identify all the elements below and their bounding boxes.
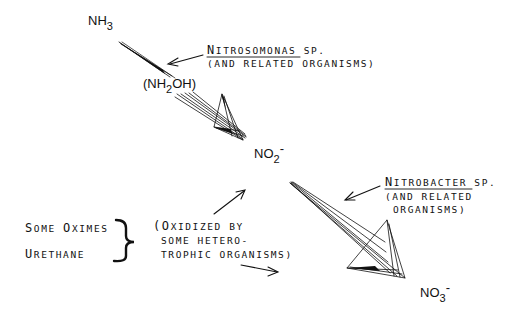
nitrobacter-pointer-icon xyxy=(345,186,380,200)
svg-text:SOME HETERO-: SOME HETERO- xyxy=(161,235,249,246)
svg-text:NITROBACTER SP.: NITROBACTER SP. xyxy=(385,175,496,189)
nitrite-label: NO2- xyxy=(254,141,284,165)
arrow-ammonia-to-hydroxylamine-icon xyxy=(119,42,175,78)
svg-text:NO3-: NO3- xyxy=(420,280,450,304)
curly-brace-icon xyxy=(114,220,134,261)
svg-text:(NH2OH): (NH2OH) xyxy=(143,76,196,95)
svg-text:(AND RELATED: (AND RELATED xyxy=(385,191,473,202)
nitrosomonas-label: NITROSOMONAS SP. (AND RELATED ORGANISMS) xyxy=(207,43,375,69)
svg-text:NO2-: NO2- xyxy=(254,141,284,165)
svg-text:(AND RELATED ORGANISMS): (AND RELATED ORGANISMS) xyxy=(207,58,375,69)
svg-text:NITROSOMONAS SP.: NITROSOMONAS SP. xyxy=(207,43,326,57)
heterotrophic-to-nitrite-arrow-icon xyxy=(214,190,245,214)
sources-label: SOME OXIMES URETHANE xyxy=(25,221,109,261)
svg-text:(OXIDIZED BY: (OXIDIZED BY xyxy=(153,219,244,233)
heterotrophic-to-nitrate-arrow-icon xyxy=(241,265,278,276)
svg-text:TROPHIC ORGANISMS): TROPHIC ORGANISMS) xyxy=(161,249,293,260)
nitrification-diagram: NH3 (NH2OH) NITROSOMONAS SP. (AND REL xyxy=(0,0,529,312)
heterotrophic-label: (OXIDIZED BY SOME HETERO- TROPHIC ORGANI… xyxy=(153,219,293,260)
svg-text:ORGANISMS): ORGANISMS) xyxy=(393,204,466,215)
nitrobacter-label: NITROBACTER SP. (AND RELATED ORGANISMS) xyxy=(385,175,496,215)
arrow-hydroxylamine-to-nitrite-icon xyxy=(175,92,246,140)
svg-text:URETHANE: URETHANE xyxy=(25,247,85,261)
ammonia-label: NH3 xyxy=(88,13,113,32)
hydroxylamine-label: (NH2OH) xyxy=(143,76,196,95)
svg-text:NH3: NH3 xyxy=(88,13,113,32)
nitrosomonas-pointer-icon xyxy=(168,55,203,66)
svg-text:SOME OXIMES: SOME OXIMES xyxy=(25,221,109,235)
nitrate-label: NO3- xyxy=(420,280,450,304)
